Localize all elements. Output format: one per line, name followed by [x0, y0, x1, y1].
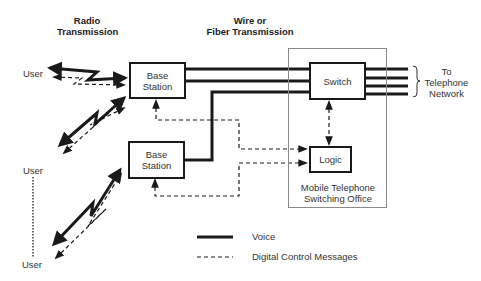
user-label-middle: User: [18, 165, 48, 176]
user-label-bottom: User: [17, 259, 47, 270]
base-station-2: Base Station: [128, 141, 185, 179]
legend-voice-label: Voice: [252, 231, 275, 242]
network-label-line3: Network: [419, 88, 474, 99]
switch-label: Switch: [324, 76, 352, 87]
base-station-1-label-line1: Base: [147, 70, 169, 81]
base-station-1-label-line2: Station: [143, 81, 173, 92]
wire-header-line2: Fiber Transmission: [200, 27, 300, 38]
diagram-connections: [0, 0, 481, 281]
logic-box: Logic: [309, 146, 352, 173]
mtso-label: Mobile Telephone Switching Office: [291, 182, 385, 204]
radio-transmission-header: Radio Transmission: [57, 16, 117, 37]
network-label-line2: Telephone: [419, 77, 474, 88]
telephone-network-label: To Telephone Network: [419, 66, 474, 99]
wire-header-line1: Wire or: [200, 16, 300, 27]
wire-transmission-header: Wire or Fiber Transmission: [200, 16, 300, 37]
radio-header-line1: Radio: [57, 16, 117, 27]
legend-control-label: Digital Control Messages: [252, 251, 358, 262]
mtso-label-line2: Switching Office: [291, 193, 385, 204]
base-station-2-label-line1: Base: [146, 149, 168, 160]
base-station-1: Base Station: [129, 62, 186, 99]
mtso-label-line1: Mobile Telephone: [291, 182, 385, 193]
switch-box: Switch: [309, 62, 366, 100]
radio-voice-link-1: [50, 68, 125, 80]
network-label-line1: To: [419, 66, 474, 77]
radio-voice-link-3: [54, 170, 120, 244]
radio-voice-link-2: [60, 98, 124, 145]
logic-label: Logic: [319, 154, 342, 165]
user-label-top: User: [18, 68, 48, 79]
radio-header-line2: Transmission: [57, 27, 117, 38]
base-station-2-label-line2: Station: [142, 160, 172, 171]
